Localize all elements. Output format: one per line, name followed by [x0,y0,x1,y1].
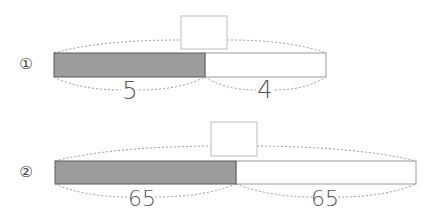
left-brace [54,77,121,90]
left-segment-label: 65 [128,186,156,211]
total-brace-right [227,40,326,53]
left-brace [155,184,236,197]
total-brace-left [55,146,211,161]
right-segment-label: 65 [311,186,339,211]
left-brace [139,77,205,90]
right-brace [275,77,326,90]
bar-unshaded-segment [236,161,416,184]
tape-diagrams: ① 5 4 ② 65 65 [0,0,433,216]
right-brace [205,77,256,90]
bar-unshaded-segment [205,53,326,77]
problem-2: ② 65 65 [19,122,416,211]
total-brace-left [54,40,181,53]
right-brace [338,184,416,197]
left-segment-label: 5 [122,77,137,105]
problem-marker: ① [19,55,32,73]
bar-shaded-segment [54,53,205,77]
answer-box[interactable] [181,16,227,49]
right-segment-label: 4 [257,76,272,104]
left-brace [55,184,129,197]
problem-marker: ② [19,163,32,181]
problem-1: ① 5 4 [19,16,326,105]
right-brace [236,184,313,197]
bar-shaded-segment [55,161,236,184]
answer-box[interactable] [211,122,257,156]
total-brace-right [257,146,416,161]
